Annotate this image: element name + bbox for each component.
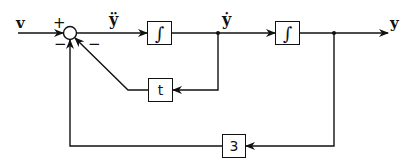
integrator-1-block: ∫ [147,21,172,45]
gain3-feedback-in [246,33,334,146]
output-label: y [390,16,399,31]
branch-point-ydot [216,31,220,35]
integrator-2-block: ∫ [275,21,300,45]
integral-icon: ∫ [283,23,292,44]
ydot-label: ẏ [222,12,231,28]
yddot-label: ÿ [109,12,118,28]
integral-icon: ∫ [155,23,164,44]
t-feedback-out [75,38,148,90]
minus-sign-left: − [54,37,67,52]
minus-sign-right: − [88,37,101,52]
gain-t-block: t [148,78,173,102]
plus-sign: + [53,16,66,31]
t-feedback-in [173,33,218,90]
branch-point-y [332,31,336,35]
gain-3-block: 3 [222,134,246,158]
input-label: v [16,16,25,31]
